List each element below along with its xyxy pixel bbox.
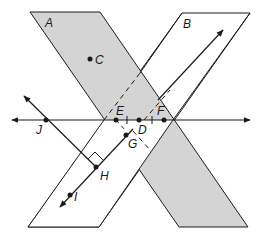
- label-plane-b: B: [183, 17, 191, 31]
- point-h: [94, 165, 99, 170]
- label-d: D: [138, 123, 147, 137]
- geometry-diagram: A B C E D F G H I J: [0, 0, 262, 238]
- label-c: C: [95, 53, 104, 67]
- label-f: F: [157, 104, 165, 118]
- point-c: [88, 57, 93, 62]
- point-d: [137, 118, 142, 123]
- point-e: [114, 118, 119, 123]
- label-g: G: [128, 137, 137, 151]
- label-j: J: [35, 123, 43, 137]
- label-plane-a: A: [44, 16, 53, 30]
- label-h: H: [100, 169, 109, 183]
- label-e: E: [116, 104, 125, 118]
- point-i: [68, 193, 73, 198]
- point-f: [162, 118, 167, 123]
- line-jh: [24, 96, 96, 167]
- point-j: [44, 118, 49, 123]
